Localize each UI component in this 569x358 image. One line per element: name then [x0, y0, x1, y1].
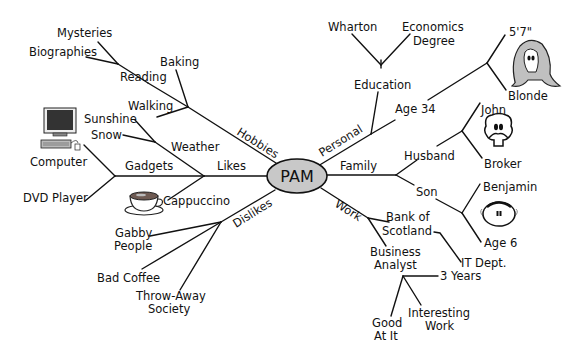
node-reading[interactable]: Reading [120, 70, 167, 84]
node-economics[interactable]: Economics [402, 20, 464, 34]
computer-icon [41, 108, 80, 150]
line-itdept [434, 232, 461, 262]
node-height[interactable]: 5'7" [509, 25, 532, 39]
node-biographies[interactable]: Biographies [29, 45, 97, 59]
node-husband[interactable]: Husband [404, 149, 455, 163]
node-walking[interactable]: Walking [128, 99, 173, 113]
branch-label-work[interactable]: Work [332, 197, 364, 224]
node-at-it[interactable]: At It [374, 329, 398, 343]
branch-label-personal[interactable]: Personal [316, 122, 365, 160]
line-son [396, 175, 414, 185]
node-broker[interactable]: Broker [484, 157, 522, 171]
node-benjamin[interactable]: Benjamin [483, 180, 537, 194]
line-economics [381, 34, 410, 65]
node-interesting[interactable]: Interesting [408, 306, 470, 320]
node-computer[interactable]: Computer [30, 155, 87, 169]
node-age-34[interactable]: Age 34 [395, 102, 436, 116]
node-mysteries[interactable]: Mysteries [57, 26, 112, 40]
line-throwaway [180, 222, 221, 290]
node-blonde[interactable]: Blonde [508, 89, 548, 103]
node-scotland[interactable]: Scotland [382, 224, 432, 238]
node-interesting-work[interactable]: Work [425, 319, 454, 333]
node-3-years[interactable]: 3 Years [440, 269, 481, 283]
node-weather[interactable]: Weather [171, 140, 220, 154]
node-snow[interactable]: Snow [91, 128, 122, 142]
line-good [391, 276, 403, 316]
node-analyst[interactable]: Analyst [374, 258, 417, 272]
node-baking[interactable]: Baking [160, 55, 199, 69]
line-husband-junction [437, 131, 462, 146]
line-hobbies [188, 107, 276, 163]
line-computer [84, 145, 115, 176]
line-interesting [403, 276, 421, 305]
line-broker [462, 131, 482, 158]
center-label: PAM [280, 167, 313, 186]
node-degree[interactable]: Degree [413, 34, 455, 48]
node-business[interactable]: Business [370, 245, 421, 259]
line-john [462, 103, 480, 131]
man-face-icon [485, 114, 513, 147]
line-bad-coffee [142, 222, 221, 269]
node-wharton[interactable]: Wharton [328, 20, 377, 34]
line-son-junction [436, 199, 462, 213]
line-age [371, 63, 487, 134]
line-education [371, 92, 378, 134]
node-society[interactable]: Society [148, 302, 190, 316]
line-blonde [487, 63, 506, 90]
branch-label-family[interactable]: Family [340, 159, 377, 173]
node-gadgets[interactable]: Gadgets [125, 159, 173, 173]
node-people[interactable]: People [114, 239, 152, 253]
node-throw-away[interactable]: Throw-Away [135, 289, 206, 303]
woman-face-icon [512, 40, 560, 86]
node-education[interactable]: Education [354, 78, 411, 92]
node-it-dept[interactable]: IT Dept. [461, 256, 506, 270]
node-age-6[interactable]: Age 6 [484, 236, 517, 250]
node-good[interactable]: Good [372, 316, 402, 330]
line-benjamin [462, 184, 480, 213]
node-bank-of[interactable]: Bank of [386, 210, 431, 224]
node-bad-coffee[interactable]: Bad Coffee [97, 271, 160, 285]
line-57 [487, 35, 505, 63]
node-dvd-player[interactable]: DVD Player [23, 191, 88, 205]
mind-map: PAM Hobbies Reading Mysteries Biographie… [0, 0, 569, 358]
line-wharton [352, 34, 381, 65]
node-cappuccino[interactable]: Cappuccino [163, 194, 230, 208]
branch-label-hobbies[interactable]: Hobbies [234, 125, 281, 162]
node-gabby[interactable]: Gabby [115, 226, 153, 240]
line-age6 [462, 213, 481, 242]
branch-label-likes[interactable]: Likes [217, 159, 246, 173]
baby-face-icon [481, 202, 518, 226]
node-sunshine[interactable]: Sunshine [84, 112, 137, 126]
line-dvd [85, 176, 115, 201]
coffee-cup-icon [125, 192, 163, 215]
node-son[interactable]: Son [416, 185, 438, 199]
